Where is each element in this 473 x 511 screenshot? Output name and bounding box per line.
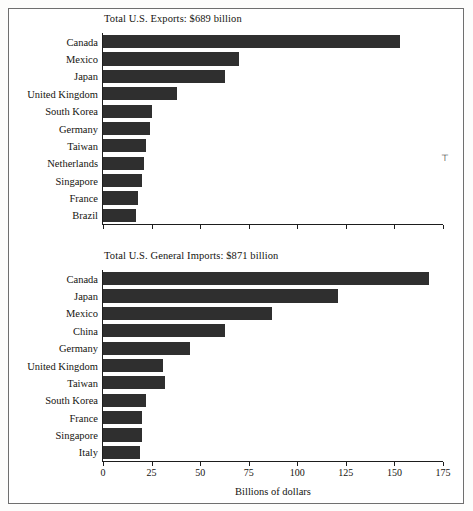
x-tick-175 <box>443 462 444 466</box>
chart-panel-exports: Total U.S. Exports: $689 billion CanadaM… <box>0 0 473 240</box>
x-tick-125 <box>346 225 347 229</box>
chart-title-imports: Total U.S. General Imports: $871 billion <box>104 250 278 261</box>
bar-row <box>103 87 443 100</box>
bar-mexico <box>103 52 239 65</box>
category-label-mexico: Mexico <box>0 308 98 319</box>
chart-title-exports: Total U.S. Exports: $689 billion <box>104 13 242 24</box>
bar-south-korea <box>103 105 152 118</box>
bar-germany <box>103 122 150 135</box>
bar-taiwan <box>103 139 146 152</box>
x-tick-175 <box>443 225 444 229</box>
category-label-canada: Canada <box>0 36 98 47</box>
bar-row <box>103 411 443 424</box>
category-label-singapore: Singapore <box>0 175 98 186</box>
bar-france <box>103 191 138 204</box>
bar-netherlands <box>103 157 144 170</box>
bar-row <box>103 428 443 441</box>
bar-row <box>103 376 443 389</box>
bar-row <box>103 52 443 65</box>
x-tick-label-150: 150 <box>387 467 402 478</box>
x-tick-125 <box>346 462 347 466</box>
bar-canada <box>103 272 429 285</box>
bar-row <box>103 359 443 372</box>
x-tick-150 <box>394 225 395 229</box>
bar-italy <box>103 446 140 459</box>
bar-row <box>103 139 443 152</box>
category-label-brazil: Brazil <box>0 210 98 221</box>
category-label-singapore: Singapore <box>0 429 98 440</box>
category-label-united-kingdom: United Kingdom <box>0 360 98 371</box>
x-tick-label-125: 125 <box>338 467 353 478</box>
category-label-mexico: Mexico <box>0 54 98 65</box>
bar-row <box>103 209 443 222</box>
category-label-japan: Japan <box>0 71 98 82</box>
x-tick-25 <box>152 462 153 466</box>
bar-row <box>103 70 443 83</box>
category-label-china: China <box>0 325 98 336</box>
bar-united-kingdom <box>103 359 163 372</box>
x-tick-label-75: 75 <box>244 467 254 478</box>
x-tick-150 <box>394 462 395 466</box>
x-axis-ticks-imports: 0255075100125150175 <box>103 462 443 478</box>
bar-south-korea <box>103 394 146 407</box>
category-label-south-korea: South Korea <box>0 106 98 117</box>
bar-row <box>103 342 443 355</box>
x-axis-title: Billions of dollars <box>103 486 443 497</box>
category-label-south-korea: South Korea <box>0 395 98 406</box>
scan-artifact-mark: ⊤ <box>441 154 449 163</box>
bar-germany <box>103 342 190 355</box>
category-label-taiwan: Taiwan <box>0 140 98 151</box>
bar-row <box>103 324 443 337</box>
x-tick-25 <box>152 225 153 229</box>
bar-row <box>103 307 443 320</box>
bar-row <box>103 35 443 48</box>
bar-row <box>103 157 443 170</box>
bar-japan <box>103 70 225 83</box>
bar-row <box>103 446 443 459</box>
bar-singapore <box>103 428 142 441</box>
x-tick-100 <box>297 462 298 466</box>
category-label-united-kingdom: United Kingdom <box>0 88 98 99</box>
x-tick-label-25: 25 <box>147 467 157 478</box>
bar-row <box>103 394 443 407</box>
figure-page: Total U.S. Exports: $689 billion CanadaM… <box>0 0 473 511</box>
category-label-netherlands: Netherlands <box>0 158 98 169</box>
bar-singapore <box>103 174 142 187</box>
bar-japan <box>103 289 338 302</box>
bar-row <box>103 174 443 187</box>
category-label-italy: Italy <box>0 447 98 458</box>
bar-row <box>103 122 443 135</box>
x-axis-ticks-exports <box>103 225 443 231</box>
bar-mexico <box>103 307 272 320</box>
category-label-taiwan: Taiwan <box>0 377 98 388</box>
bars-imports <box>103 270 443 461</box>
x-tick-label-0: 0 <box>101 467 106 478</box>
category-label-france: France <box>0 192 98 203</box>
x-tick-label-100: 100 <box>290 467 305 478</box>
bar-canada <box>103 35 400 48</box>
category-label-japan: Japan <box>0 291 98 302</box>
category-label-germany: Germany <box>0 343 98 354</box>
bar-row <box>103 289 443 302</box>
x-tick-0 <box>103 462 104 466</box>
category-label-france: France <box>0 412 98 423</box>
x-tick-75 <box>249 225 250 229</box>
plot-area-imports: 0255075100125150175 <box>103 270 443 462</box>
x-tick-75 <box>249 462 250 466</box>
x-tick-label-175: 175 <box>436 467 451 478</box>
plot-area-exports <box>103 33 443 225</box>
x-tick-100 <box>297 225 298 229</box>
category-label-canada: Canada <box>0 273 98 284</box>
bar-row <box>103 272 443 285</box>
x-tick-label-50: 50 <box>195 467 205 478</box>
bar-row <box>103 105 443 118</box>
bar-france <box>103 411 142 424</box>
bar-united-kingdom <box>103 87 177 100</box>
bar-brazil <box>103 209 136 222</box>
bar-china <box>103 324 225 337</box>
bar-taiwan <box>103 376 165 389</box>
x-tick-0 <box>103 225 104 229</box>
x-tick-50 <box>200 462 201 466</box>
bars-exports <box>103 33 443 224</box>
bar-row <box>103 191 443 204</box>
